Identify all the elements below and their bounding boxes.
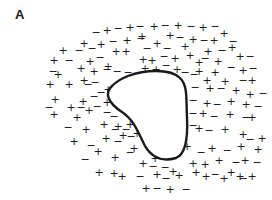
negative-charge: − — [80, 153, 89, 166]
double-layer-diagram: −+−+−+−+−+−+−−+−+−++−+−++−++−+−++−+−++−+… — [0, 0, 272, 200]
negative-charge: − — [161, 59, 170, 72]
positive-charge: + — [72, 111, 81, 124]
negative-charge: − — [152, 182, 161, 195]
positive-charge: + — [79, 74, 88, 87]
positive-charge: + — [96, 38, 105, 51]
positive-charge: + — [253, 143, 262, 156]
positive-charge: + — [129, 142, 138, 155]
positive-charge: + — [247, 111, 256, 124]
positive-charge: + — [194, 122, 203, 135]
positive-charge: + — [117, 170, 126, 183]
negative-charge: − — [188, 94, 197, 107]
positive-charge: + — [247, 170, 256, 183]
negative-charge: − — [216, 82, 225, 95]
positive-charge: + — [235, 50, 244, 63]
positive-charge: + — [141, 182, 150, 195]
positive-charge: + — [236, 140, 245, 153]
negative-charge: − — [92, 100, 101, 113]
negative-charge: − — [113, 22, 122, 35]
positive-charge: + — [165, 29, 174, 42]
positive-charge: + — [81, 123, 90, 136]
positive-charge: + — [198, 21, 207, 34]
negative-charge: − — [210, 168, 219, 181]
negative-charge: − — [226, 61, 235, 74]
positive-charge: + — [152, 37, 161, 50]
positive-charge: + — [125, 21, 134, 34]
negative-charge: − — [63, 121, 72, 134]
negative-charge: − — [258, 87, 267, 100]
positive-charge: + — [220, 123, 229, 136]
positive-charge: + — [165, 183, 174, 196]
positive-charge: + — [152, 168, 161, 181]
positive-charge: + — [110, 151, 119, 164]
positive-charge: + — [191, 166, 200, 179]
positive-charge: + — [49, 108, 58, 121]
positive-charge: + — [226, 166, 235, 179]
positive-charge: + — [241, 98, 250, 111]
positive-charge: + — [225, 108, 234, 121]
negative-charge: − — [180, 66, 189, 79]
positive-charge: + — [111, 45, 120, 58]
negative-charge: − — [112, 65, 121, 78]
positive-charge: + — [174, 169, 183, 182]
positive-charge: + — [138, 157, 147, 170]
positive-charge: + — [121, 45, 130, 58]
negative-charge: − — [204, 124, 213, 137]
positive-charge: + — [188, 33, 197, 46]
positive-charge: + — [185, 49, 194, 62]
positive-charge: + — [210, 66, 219, 79]
positive-charge: + — [64, 78, 73, 91]
negative-charge: − — [210, 20, 219, 33]
positive-charge: + — [149, 20, 158, 33]
positive-charge: + — [226, 95, 235, 108]
positive-charge: + — [101, 132, 110, 145]
negative-charge: − — [181, 183, 190, 196]
negative-charge: − — [190, 81, 199, 94]
negative-charge: − — [74, 44, 83, 57]
positive-charge: + — [201, 170, 210, 183]
positive-charge: + — [45, 78, 54, 91]
negative-charge: − — [238, 172, 247, 185]
positive-charge: + — [94, 166, 103, 179]
positive-charge: + — [240, 154, 249, 167]
positive-charge: + — [99, 118, 108, 131]
positive-charge: + — [214, 154, 223, 167]
positive-charge: + — [93, 145, 102, 158]
negative-charge: − — [209, 110, 218, 123]
positive-charge: + — [103, 60, 112, 73]
positive-charge: + — [247, 74, 256, 87]
negative-charge: − — [252, 156, 261, 169]
positive-charge: + — [198, 107, 207, 120]
positive-charge: + — [53, 68, 62, 81]
negative-charge: − — [222, 144, 231, 157]
positive-charge: + — [219, 27, 228, 40]
negative-charge: − — [186, 20, 195, 33]
negative-charge: − — [64, 54, 73, 67]
positive-charge: + — [69, 135, 78, 148]
positive-charge: + — [205, 82, 214, 95]
